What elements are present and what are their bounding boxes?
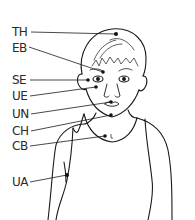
right-eyebrow <box>119 69 132 71</box>
label-cb: CB <box>12 140 28 152</box>
leader-line-eb <box>29 47 103 72</box>
right-pupil <box>123 78 126 81</box>
dot-under-eye <box>94 85 98 89</box>
tapping-points-diagram <box>0 0 195 220</box>
hair-outline <box>81 29 146 76</box>
label-th: TH <box>12 26 27 38</box>
leader-line-ue <box>30 87 96 96</box>
dot-chin <box>109 113 113 117</box>
label-ua: UA <box>12 176 28 188</box>
dot-collarbone <box>103 134 107 138</box>
right-inner-arm <box>145 119 153 220</box>
hair-strands <box>92 38 138 66</box>
boy-figure <box>48 29 172 220</box>
shirt-strap-left <box>73 114 84 132</box>
label-ch: CH <box>12 125 28 137</box>
dot-eyebrow <box>101 70 105 74</box>
left-pupil <box>97 78 100 81</box>
nose <box>104 84 120 97</box>
left-inner-arm-2 <box>64 162 66 182</box>
label-eb: EB <box>12 42 27 54</box>
right-shoulder-arm <box>137 118 172 220</box>
leader-line-ch <box>31 115 111 131</box>
left-ear <box>78 74 86 90</box>
left-shoulder-arm <box>48 124 85 220</box>
dot-top-of-head <box>114 32 118 36</box>
point-leader-lines <box>29 32 116 182</box>
dot-under-arm <box>65 173 69 177</box>
tapping-point-dots <box>65 32 118 177</box>
leader-line-un <box>31 102 111 114</box>
label-un: UN <box>12 108 29 120</box>
leader-line-ua <box>30 175 67 182</box>
collarbone-tick <box>111 134 113 138</box>
label-se: SE <box>12 74 26 86</box>
neck-right <box>128 110 137 118</box>
right-ear <box>139 76 147 91</box>
leader-line-cb <box>30 136 105 146</box>
dot-under-nose <box>109 100 113 104</box>
label-ue: UE <box>12 90 27 102</box>
leader-line-th <box>31 32 116 34</box>
dot-side-of-eye <box>86 78 90 82</box>
